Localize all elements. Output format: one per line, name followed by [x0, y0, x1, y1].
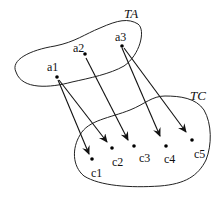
arrow-a3-c5	[124, 48, 186, 132]
label-a1: a1	[47, 60, 58, 74]
point-c4	[164, 144, 168, 148]
points-a: a1 a2 a3	[47, 30, 126, 79]
label-a2: a2	[73, 41, 84, 55]
mapping-arrows	[58, 48, 186, 154]
diagram-canvas: TA TC a1 a2 a3 c1 c2 c3 c4 c5	[0, 0, 223, 197]
arrow-a2-c3	[86, 58, 128, 140]
point-a1	[55, 75, 59, 79]
point-c2	[110, 146, 114, 150]
point-a3	[120, 44, 124, 48]
arrow-a1-c1	[58, 80, 89, 154]
point-c1	[90, 157, 94, 161]
set-tc-label: TC	[190, 88, 206, 103]
label-c2: c2	[112, 155, 123, 169]
points-c: c1 c2 c3 c4 c5	[90, 138, 205, 180]
label-a3: a3	[115, 30, 126, 44]
point-c5	[190, 138, 194, 142]
mapping-diagram: TA TC a1 a2 a3 c1 c2 c3 c4 c5	[0, 0, 223, 197]
arrow-a1-c2	[59, 80, 107, 142]
label-c1: c1	[91, 166, 102, 180]
set-ta-label: TA	[124, 6, 138, 21]
label-c5: c5	[194, 147, 205, 161]
point-c3	[132, 144, 136, 148]
label-c3: c3	[139, 151, 150, 165]
label-c4: c4	[164, 152, 175, 166]
arrow-a3-c4	[122, 48, 160, 136]
